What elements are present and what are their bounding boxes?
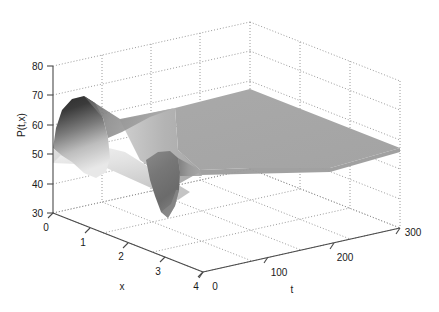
x-axis-line — [53, 213, 203, 272]
t-axis-title: t — [291, 284, 294, 295]
surface-plot-svg: 80 70 60 50 40 30 0 1 2 3 4 0 100 200 30… — [0, 0, 439, 312]
z-axis-title: P(t,x) — [16, 113, 27, 137]
z-tick-label-30: 30 — [32, 208, 44, 219]
x-tick-0 — [48, 213, 53, 218]
t-tick-label-200: 200 — [337, 252, 354, 263]
t-tick-label-0: 0 — [212, 281, 218, 292]
surface-mesh — [53, 89, 400, 218]
x-tick-1 — [85, 228, 90, 233]
x-tick-3 — [160, 257, 165, 262]
x-tick-label-1: 1 — [80, 237, 86, 248]
axes: 80 70 60 50 40 30 0 1 2 3 4 0 100 200 30… — [16, 61, 422, 295]
x-tick-label-0: 0 — [43, 222, 49, 233]
t-tick-label-300: 300 — [405, 227, 422, 238]
x-tick-label-3: 3 — [155, 266, 161, 277]
z-tick-label-40: 40 — [32, 179, 44, 190]
t-tick-label-100: 100 — [271, 267, 288, 278]
x-axis-title: x — [120, 281, 125, 292]
x-tick-label-2: 2 — [118, 251, 124, 262]
z-tick-label-80: 80 — [32, 61, 44, 72]
x-tick-label-4: 4 — [193, 281, 199, 292]
figure-canvas: 80 70 60 50 40 30 0 1 2 3 4 0 100 200 30… — [0, 0, 439, 312]
z-tick-label-70: 70 — [32, 90, 44, 101]
z-tick-label-50: 50 — [32, 149, 44, 160]
x-tick-2 — [123, 243, 128, 248]
z-tick-label-60: 60 — [32, 120, 44, 131]
